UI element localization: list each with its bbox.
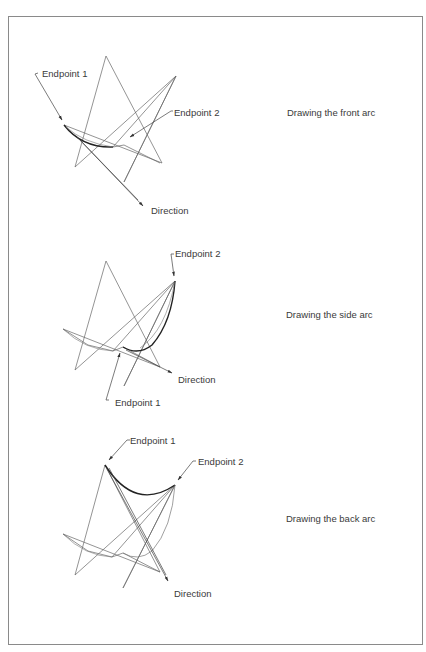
panel-front-caption: Drawing the front arc [287,108,375,118]
panel-side-caption: Drawing the side arc [286,310,373,320]
diagram-canvas [0,0,426,652]
panel-front-arc-curve [64,125,113,147]
panel-back-endpoint1-label: Endpoint 1 [130,436,175,446]
panel-back-arc-curve [63,465,175,557]
panel-side-direction-label: Direction [178,375,216,385]
panel-front-arc-leaders [35,73,173,206]
panel-front-direction-label: Direction [151,206,189,216]
panel-back-arc-leaders [107,440,196,581]
panel-side-endpoint2-label: Endpoint 2 [175,249,220,259]
panel-side-arc-wireframe [63,261,175,386]
panel-back-endpoint2-label: Endpoint 2 [198,457,243,467]
panel-front-endpoint1-label: Endpoint 1 [42,69,87,79]
panel-back-caption: Drawing the back arc [286,514,375,524]
panel-front-endpoint2-label: Endpoint 2 [174,108,219,118]
panel-side-endpoint1-label: Endpoint 1 [115,398,160,408]
panel-back-direction-label: Direction [174,589,212,599]
panel-back-arc-wireframe [63,465,175,588]
